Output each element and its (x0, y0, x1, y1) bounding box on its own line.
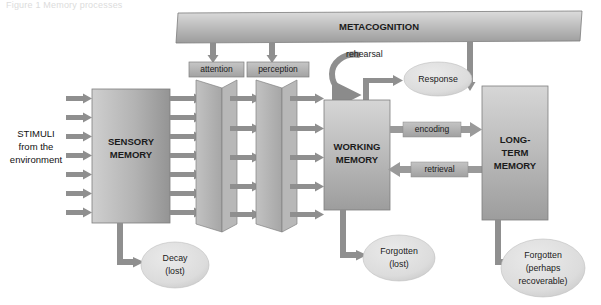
encoding-edge: encoding (390, 122, 482, 137)
stimuli-arrow (66, 113, 92, 123)
stimuli-label: STIMULI from the environment (10, 128, 63, 165)
stimuli-arrow (66, 208, 92, 218)
sensory-memory-label-line1: SENSORY (108, 136, 155, 147)
stimuli-input-arrows (66, 94, 92, 218)
rehearsal-loop: rehearsal (332, 49, 383, 95)
long-term-memory-label-line3: MEMORY (494, 160, 537, 171)
stimuli-arrow (66, 151, 92, 161)
forgotten-ltm-label-line2: (perhaps (526, 263, 561, 273)
response-label: Response (418, 74, 458, 84)
sensory-memory-label-line2: MEMORY (110, 149, 153, 160)
perception-node[interactable]: perception (247, 62, 309, 77)
forgotten-wm-label-line1: Forgotten (380, 246, 418, 256)
long-term-memory-label-line1: LONG- (500, 134, 531, 145)
forgotten-ltm-label-line3: recoverable) (519, 276, 568, 286)
working-memory-to-forgotten-arrow (340, 210, 367, 261)
forgotten-wm-label-line2: (lost) (389, 259, 409, 269)
rehearsal-label: rehearsal (346, 49, 383, 59)
response-node[interactable]: Response (404, 62, 472, 96)
metacognition-to-perception-arrow (267, 43, 278, 63)
working-memory-label-line2: MEMORY (336, 154, 379, 165)
metacognition-to-attention-arrow (208, 43, 219, 63)
sensory-to-decay-arrow (117, 223, 144, 268)
stimuli-arrow (66, 170, 92, 180)
working-memory-label-line1: WORKING (334, 141, 381, 152)
retrieval-edge: retrieval (388, 162, 482, 177)
forgotten-long-term-memory-node[interactable]: Forgotten (perhaps recoverable) (501, 239, 585, 297)
diagram-canvas: Figure 1 Memory processes (0, 0, 601, 305)
forgotten-working-memory-node[interactable]: Forgotten (lost) (363, 235, 435, 281)
metacognition-label: METACOGNITION (339, 21, 419, 32)
retrieval-label: retrieval (424, 164, 454, 174)
metacognition-node[interactable]: METACOGNITION (176, 11, 582, 43)
long-term-memory-node[interactable]: LONG- TERM MEMORY (482, 86, 548, 220)
attention-node[interactable]: attention (189, 62, 244, 77)
working-memory-node[interactable]: WORKING MEMORY (324, 100, 390, 210)
stimuli-arrow (66, 132, 92, 142)
sensory-memory-node[interactable]: SENSORY MEMORY (92, 89, 170, 223)
stimuli-arrow (66, 189, 92, 199)
memory-process-diagram: STIMULI from the environment SENSORY MEM… (0, 0, 601, 305)
stimuli-arrow (66, 94, 92, 104)
forgotten-ltm-label-line1: Forgotten (524, 250, 562, 260)
attention-label: attention (200, 64, 233, 74)
decay-label-line2: (lost) (165, 266, 185, 276)
decay-label-line1: Decay (163, 253, 189, 263)
working-memory-to-response-arrow (363, 75, 403, 100)
long-term-memory-label-line2: TERM (502, 147, 529, 158)
stimuli-line-1: STIMULI (17, 128, 54, 139)
stimuli-line-3: environment (10, 154, 63, 165)
encoding-label: encoding (415, 124, 450, 134)
stimuli-line-2: from the (19, 141, 54, 152)
perception-label: perception (258, 64, 298, 74)
decay-node[interactable]: Decay (lost) (141, 242, 209, 288)
